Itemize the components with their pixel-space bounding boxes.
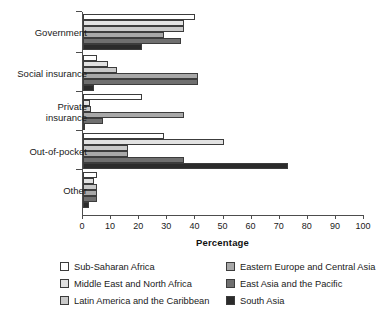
x-tick xyxy=(335,215,336,219)
category-label-social-insurance: Social insurance xyxy=(0,68,87,79)
legend-label: South Asia xyxy=(240,296,284,306)
x-tick xyxy=(110,215,111,219)
x-tick xyxy=(307,215,308,219)
swatch-east-asia-pacific-icon xyxy=(226,279,235,288)
x-tick-label: 50 xyxy=(217,221,227,231)
x-tick-label: 20 xyxy=(133,221,143,231)
x-tick-label: 40 xyxy=(189,221,199,231)
chart-legend: Sub-Saharan AfricaEastern Europe and Cen… xyxy=(60,258,370,309)
group-separator-tick xyxy=(76,169,82,170)
x-axis-title: Percentage xyxy=(82,237,363,248)
x-tick-label: 70 xyxy=(274,221,284,231)
bar xyxy=(83,202,89,208)
x-tick-label: 60 xyxy=(246,221,256,231)
x-tick xyxy=(363,215,364,219)
bar xyxy=(83,44,142,50)
legend-label: Sub-Saharan Africa xyxy=(74,262,155,272)
x-tick xyxy=(251,215,252,219)
swatch-latin-america-caribbean-icon xyxy=(60,296,69,305)
category-label-private-insurance: Private insurance xyxy=(0,101,87,123)
x-tick xyxy=(138,215,139,219)
legend-item: East Asia and the Pacific xyxy=(226,279,376,289)
x-tick-label: 100 xyxy=(355,221,370,231)
swatch-sub-saharan-africa-icon xyxy=(60,262,69,271)
x-tick-label: 10 xyxy=(105,221,115,231)
legend-label: Eastern Europe and Central Asia xyxy=(240,262,375,272)
group-separator-tick xyxy=(76,91,82,92)
legend-item: Eastern Europe and Central Asia xyxy=(226,262,376,272)
x-tick-label: 80 xyxy=(302,221,312,231)
x-tick xyxy=(194,215,195,219)
legend-label: Latin America and the Caribbean xyxy=(74,296,209,306)
group-separator-tick xyxy=(76,130,82,131)
legend-item: Middle East and North Africa xyxy=(60,279,226,289)
group-separator-tick xyxy=(76,11,82,12)
bar xyxy=(83,79,198,85)
bar xyxy=(83,124,85,130)
legend-item: Latin America and the Caribbean xyxy=(60,296,226,306)
x-tick xyxy=(223,215,224,219)
legend-item: Sub-Saharan Africa xyxy=(60,262,226,272)
swatch-south-asia-icon xyxy=(226,296,235,305)
bar xyxy=(83,94,142,100)
category-label-other: Other xyxy=(0,185,87,196)
legend-item: South Asia xyxy=(226,296,376,306)
x-tick xyxy=(279,215,280,219)
bar xyxy=(83,163,288,169)
category-label-government: Government xyxy=(0,27,87,38)
category-label-out-of-pocket: Out-of-pocket xyxy=(0,146,87,157)
bar xyxy=(83,85,94,91)
grouped-bar-chart: 0102030405060708090100 Percentage Govern… xyxy=(0,0,377,309)
x-tick-label: 0 xyxy=(79,221,84,231)
x-tick xyxy=(82,215,83,219)
swatch-middle-east-north-africa-icon xyxy=(60,279,69,288)
legend-label: Middle East and North Africa xyxy=(74,279,192,289)
swatch-eastern-europe-central-asia-icon xyxy=(226,262,235,271)
group-separator-tick xyxy=(76,52,82,53)
x-tick-label: 30 xyxy=(161,221,171,231)
plot-area: 0102030405060708090100 Percentage xyxy=(82,12,363,215)
legend-label: East Asia and the Pacific xyxy=(240,279,342,289)
x-tick-label: 90 xyxy=(330,221,340,231)
x-tick xyxy=(166,215,167,219)
